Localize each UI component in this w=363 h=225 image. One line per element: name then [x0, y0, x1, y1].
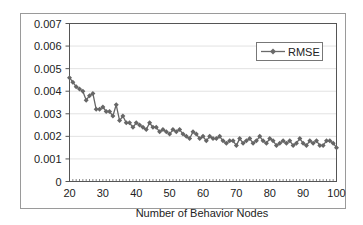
- legend-label: RMSE: [288, 46, 320, 58]
- y-tick-label: 0.001: [34, 153, 62, 165]
- x-axis-minor-ticks: [70, 179, 337, 182]
- y-tick-label: 0.005: [34, 63, 62, 75]
- x-tick-label: 80: [264, 187, 276, 199]
- y-tick-label: 0.007: [34, 18, 62, 30]
- x-tick-label: 30: [97, 187, 109, 199]
- x-tick-label: 50: [164, 187, 176, 199]
- y-tick-label: 0.002: [34, 130, 62, 142]
- y-tick-label: 0: [55, 176, 61, 188]
- legend: RMSE: [257, 43, 323, 61]
- rmse-line-chart: 00.0010.0020.0030.0040.0050.0060.007 203…: [0, 0, 363, 225]
- x-tick-label: 20: [63, 187, 75, 199]
- x-tick-label: 90: [297, 187, 309, 199]
- y-tick-label: 0.003: [34, 108, 62, 120]
- y-tick-label: 0.004: [34, 85, 62, 97]
- x-tick-label: 60: [197, 187, 209, 199]
- x-axis-ticks: 2030405060708090100: [63, 187, 345, 199]
- x-tick-label: 70: [230, 187, 242, 199]
- x-tick-label: 100: [327, 187, 345, 199]
- y-tick-label: 0.006: [34, 40, 62, 52]
- x-tick-label: 40: [130, 187, 142, 199]
- x-axis-title: Number of Behavior Nodes: [136, 207, 269, 219]
